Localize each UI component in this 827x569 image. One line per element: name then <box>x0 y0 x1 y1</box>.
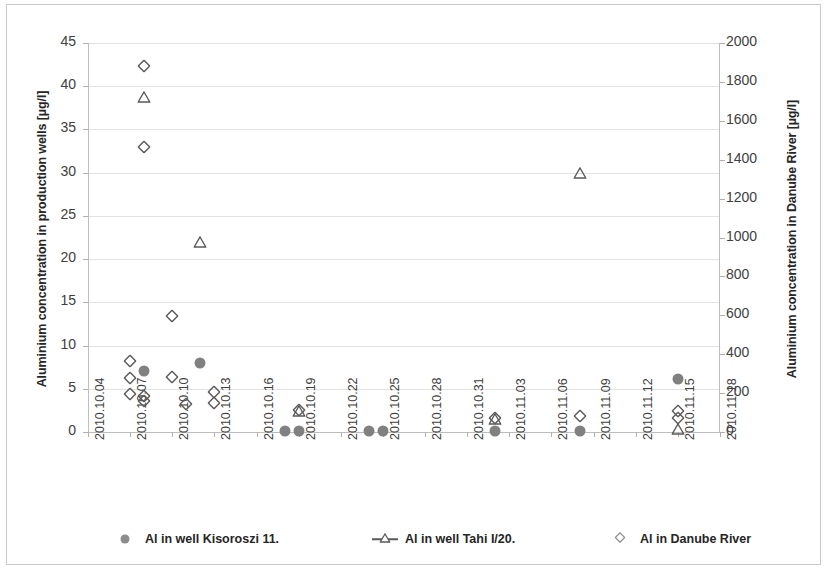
y-axis-right-tick <box>720 354 725 355</box>
legend-label: Al in well Tahi I/20. <box>405 532 515 546</box>
y-axis-left-tick-label: 45 <box>30 33 76 49</box>
y-axis-right-tick-label: 1800 <box>726 72 774 88</box>
y-axis-right-tick-label: 600 <box>726 305 774 321</box>
y-axis-right-tick <box>720 199 725 200</box>
data-point-diamond <box>166 370 179 383</box>
legend-item-2[interactable]: Al in well Tahi I/20. <box>372 528 515 550</box>
x-axis-tick <box>257 432 258 437</box>
data-point-circle <box>363 426 374 437</box>
y-axis-left-tick-label: 15 <box>30 292 76 308</box>
x-axis-tick-label: 2010.10.25 <box>388 377 402 440</box>
legend-diamond-icon <box>607 532 633 546</box>
x-axis-tick-label: 2010.11.12 <box>641 378 655 440</box>
y-axis-right-line <box>719 43 720 432</box>
data-point-circle <box>490 426 501 437</box>
x-axis-tick-label: 2010.10.13 <box>219 377 233 440</box>
x-axis-tick <box>636 432 637 437</box>
y-axis-left-tick-label: 0 <box>30 422 76 438</box>
y-axis-right-tick <box>720 238 725 239</box>
plot-area <box>88 43 720 432</box>
y-axis-left-tick-label: 5 <box>30 379 76 395</box>
gridline-horizontal <box>88 259 720 260</box>
data-point-triangle <box>573 167 586 179</box>
legend-label: Al in well Kisoroszi 11. <box>145 532 279 546</box>
y-axis-left-line <box>88 43 89 432</box>
x-axis-tick <box>720 432 721 437</box>
x-axis-tick <box>425 432 426 437</box>
data-point-diamond <box>671 412 684 425</box>
data-point-triangle <box>671 423 684 435</box>
legend-item-1[interactable]: Al in well Kisoroszi 11. <box>112 528 279 550</box>
y-axis-left-tick-label: 20 <box>30 249 76 265</box>
y-axis-right-title: Aluminium concentration in Danube River … <box>785 39 799 439</box>
x-axis-tick-label: 2010.10.28 <box>430 377 444 440</box>
y-axis-right-tick-label: 1600 <box>726 111 774 127</box>
y-axis-right-tick <box>720 82 725 83</box>
legend-item-3[interactable]: Al in Danube River <box>607 528 751 550</box>
data-point-circle <box>293 426 304 437</box>
data-point-circle <box>279 426 290 437</box>
x-axis-tick <box>341 432 342 437</box>
gridline-horizontal <box>88 43 720 44</box>
data-point-circle <box>574 426 585 437</box>
x-axis-tick <box>88 432 89 437</box>
x-axis-tick-label: 2010.11.09 <box>599 378 613 440</box>
gridline-horizontal <box>88 302 720 303</box>
chart-legend: Al in well Kisoroszi 11.Al in well Tahi … <box>12 528 815 558</box>
data-point-diamond <box>138 394 151 407</box>
y-axis-right-tick-label: 1000 <box>726 228 774 244</box>
legend-line-triangle-icon <box>372 532 398 546</box>
data-point-circle <box>377 426 388 437</box>
data-point-diamond <box>124 387 137 400</box>
legend-label: Al in Danube River <box>640 532 751 546</box>
x-axis-tick <box>214 432 215 437</box>
y-axis-right-tick <box>720 160 725 161</box>
gridline-horizontal <box>88 173 720 174</box>
y-axis-right-tick <box>720 121 725 122</box>
gridline-horizontal <box>88 216 720 217</box>
data-point-diamond <box>138 60 151 73</box>
data-point-diamond <box>124 371 137 384</box>
data-point-circle <box>195 357 206 368</box>
x-axis-tick-label: 2010.11.18 <box>725 378 739 440</box>
legend-circle-icon <box>112 532 138 546</box>
data-point-diamond <box>573 410 586 423</box>
data-point-circle <box>139 366 150 377</box>
y-axis-right-tick-label: 800 <box>726 266 774 282</box>
y-axis-left-tick-label: 40 <box>30 76 76 92</box>
x-axis-tick-label: 2010.11.15 <box>683 378 697 440</box>
x-axis-tick <box>594 432 595 437</box>
x-axis-tick-label: 2010.10.22 <box>346 377 360 440</box>
y-axis-right-tick-label: 1400 <box>726 150 774 166</box>
y-axis-right-tick-label: 400 <box>726 344 774 360</box>
y-axis-right-tick-label: 1200 <box>726 189 774 205</box>
x-axis-tick <box>509 432 510 437</box>
x-axis-tick <box>551 432 552 437</box>
y-axis-left-tick-label: 35 <box>30 119 76 135</box>
gridline-horizontal <box>88 346 720 347</box>
y-axis-left-tick-label: 10 <box>30 336 76 352</box>
data-point-diamond <box>138 140 151 153</box>
y-axis-right-tick <box>720 315 725 316</box>
gridline-horizontal <box>88 129 720 130</box>
data-point-triangle <box>194 236 207 248</box>
y-axis-left-tick-label: 25 <box>30 206 76 222</box>
data-point-diamond <box>166 310 179 323</box>
data-point-diamond <box>180 398 193 411</box>
data-point-diamond <box>489 412 502 425</box>
x-axis-tick-label: 2010.10.16 <box>262 377 276 440</box>
data-point-circle <box>672 374 683 385</box>
x-axis-tick-label: 2010.10.04 <box>93 377 107 440</box>
x-axis-tick <box>172 432 173 437</box>
gridline-horizontal <box>88 86 720 87</box>
x-axis-tick <box>130 432 131 437</box>
x-axis-tick-label: 2010.11.06 <box>556 378 570 440</box>
x-axis-tick-label: 2010.10.19 <box>304 377 318 440</box>
x-axis-tick <box>467 432 468 437</box>
y-axis-right-tick <box>720 276 725 277</box>
y-axis-right-tick <box>720 43 725 44</box>
data-point-triangle <box>138 91 151 103</box>
x-axis-tick-label: 2010.10.07 <box>135 377 149 440</box>
x-axis-tick-label: 2010.10.31 <box>472 377 486 440</box>
data-point-diamond <box>208 396 221 409</box>
